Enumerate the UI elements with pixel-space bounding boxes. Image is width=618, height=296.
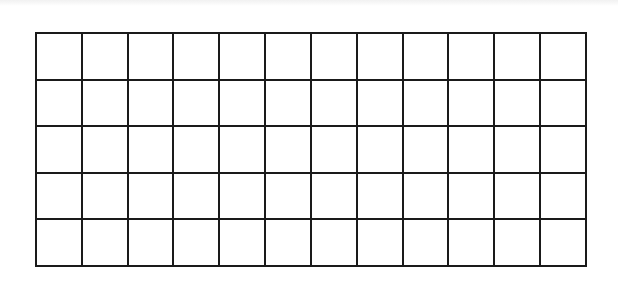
grid-cell bbox=[129, 174, 175, 221]
grid-cell bbox=[312, 81, 358, 128]
grid-cell bbox=[312, 174, 358, 221]
grid-cell bbox=[541, 34, 587, 81]
grid-cell bbox=[358, 220, 404, 267]
grid-cell bbox=[495, 81, 541, 128]
grid-table bbox=[35, 32, 587, 267]
grid-cell bbox=[174, 81, 220, 128]
grid-cell bbox=[541, 127, 587, 174]
grid-cell bbox=[358, 81, 404, 128]
grid-cell bbox=[449, 81, 495, 128]
grid-cell bbox=[83, 127, 129, 174]
grid-cell bbox=[220, 220, 266, 267]
grid-cell bbox=[266, 220, 312, 267]
top-edge-artifact bbox=[0, 0, 618, 6]
grid-cell bbox=[541, 174, 587, 221]
grid-cell bbox=[129, 34, 175, 81]
grid-cell bbox=[174, 34, 220, 81]
grid-cell bbox=[541, 81, 587, 128]
grid-cell bbox=[220, 81, 266, 128]
grid-cell bbox=[37, 34, 83, 81]
grid-cell bbox=[404, 174, 450, 221]
grid-cell bbox=[449, 174, 495, 221]
grid-cell bbox=[37, 127, 83, 174]
grid-cell bbox=[495, 220, 541, 267]
grid-cell bbox=[37, 220, 83, 267]
grid-cell bbox=[174, 127, 220, 174]
grid-cell bbox=[129, 127, 175, 174]
grid-cell bbox=[358, 174, 404, 221]
grid-cell bbox=[220, 127, 266, 174]
grid-cell bbox=[129, 220, 175, 267]
grid-cell bbox=[266, 34, 312, 81]
grid-cell bbox=[220, 174, 266, 221]
grid-cell bbox=[83, 34, 129, 81]
grid-cell bbox=[449, 127, 495, 174]
grid-cell bbox=[220, 34, 266, 81]
grid-cell bbox=[404, 220, 450, 267]
grid-cell bbox=[449, 34, 495, 81]
grid-cell bbox=[83, 81, 129, 128]
grid-cell bbox=[174, 220, 220, 267]
grid-cell bbox=[495, 34, 541, 81]
grid-cell bbox=[404, 81, 450, 128]
grid-cell bbox=[174, 174, 220, 221]
grid-cell bbox=[404, 127, 450, 174]
grid-cell bbox=[266, 174, 312, 221]
grid-cell bbox=[358, 127, 404, 174]
grid-cell bbox=[37, 81, 83, 128]
grid-cell bbox=[541, 220, 587, 267]
grid-cell bbox=[312, 220, 358, 267]
grid-cell bbox=[83, 174, 129, 221]
grid-cell bbox=[129, 81, 175, 128]
grid-cell bbox=[312, 127, 358, 174]
grid-cell bbox=[83, 220, 129, 267]
grid-cell bbox=[358, 34, 404, 81]
grid-cell bbox=[449, 220, 495, 267]
grid-cell bbox=[312, 34, 358, 81]
grid-cell bbox=[37, 174, 83, 221]
grid-cell bbox=[495, 174, 541, 221]
grid-cell bbox=[266, 127, 312, 174]
grid-cell bbox=[404, 34, 450, 81]
grid-cell bbox=[495, 127, 541, 174]
grid-cell bbox=[266, 81, 312, 128]
